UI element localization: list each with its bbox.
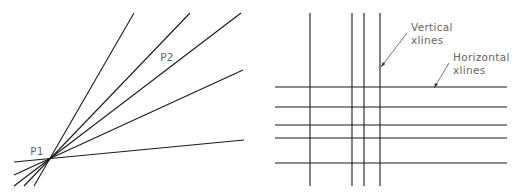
xlines-through-point-figure: P1P2 bbox=[14, 13, 244, 186]
point-label-p2: P2 bbox=[160, 51, 174, 63]
xline-diagram: P1P2 VerticalxlinesHorizontalxlines bbox=[0, 0, 515, 196]
vertical-horizontal-xlines-figure: VerticalxlinesHorizontalxlines bbox=[275, 13, 510, 186]
xline-through-p1 bbox=[14, 140, 244, 162]
callout-vertical-line1: Vertical bbox=[411, 21, 453, 33]
xline-through-p1 bbox=[14, 13, 241, 186]
point-label-p1: P1 bbox=[30, 145, 44, 157]
leader-line-vertical bbox=[381, 33, 407, 67]
callout-vertical-line2: xlines bbox=[411, 34, 443, 46]
callout-horizontal-line2: xlines bbox=[453, 64, 485, 76]
callout-horizontal-line1: Horizontal bbox=[453, 51, 510, 63]
